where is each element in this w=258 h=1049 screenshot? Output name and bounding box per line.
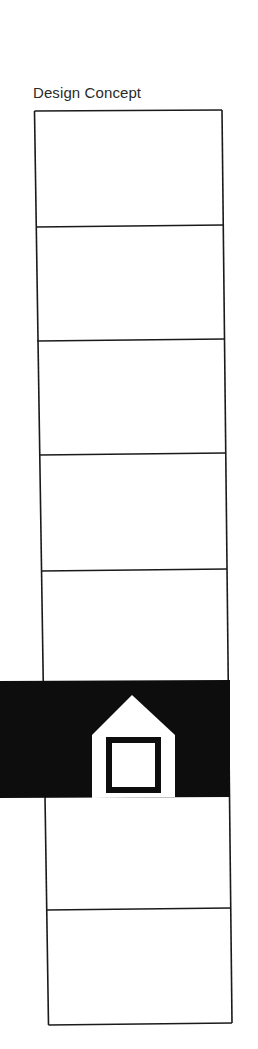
segment-divider — [35, 110, 223, 111]
design-concept-column — [0, 0, 258, 1049]
segment-divider — [36, 225, 223, 227]
segment-divider — [46, 908, 230, 910]
segment-divider — [37, 339, 224, 341]
segment-divider — [39, 453, 225, 455]
segment-divider — [41, 569, 227, 571]
segment-divider — [49, 1023, 233, 1025]
column-outline — [35, 110, 233, 1025]
